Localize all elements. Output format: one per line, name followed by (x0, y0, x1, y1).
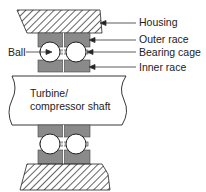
housing-bottom (20, 164, 110, 190)
label-shaft-line1: Turbine/ (30, 87, 111, 100)
ball-top-right (66, 42, 86, 62)
label-bearing-cage: Bearing cage (139, 47, 201, 58)
label-housing: Housing (139, 17, 178, 28)
ball-bottom-left (40, 134, 60, 154)
label-shaft: Turbine/ compressor shaft (30, 87, 111, 112)
ball-bottom-right (66, 134, 86, 154)
housing-top (17, 10, 102, 33)
label-shaft-line2: compressor shaft (30, 100, 111, 113)
label-ball: Ball (8, 47, 26, 58)
label-outer-race: Outer race (139, 34, 189, 45)
label-inner-race: Inner race (139, 62, 186, 73)
